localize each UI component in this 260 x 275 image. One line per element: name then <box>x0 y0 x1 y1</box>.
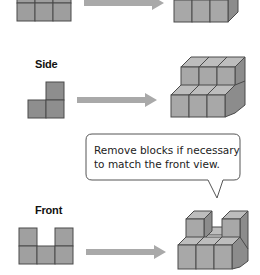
front-result-blocks <box>176 205 256 275</box>
front-view-squares <box>19 228 77 268</box>
callout-line-1: Remove blocks if necessary <box>94 143 244 157</box>
right-arrow-icon <box>86 246 168 260</box>
right-arrow-icon <box>84 0 166 12</box>
top-result-blocks <box>174 0 254 26</box>
right-arrow-icon <box>77 94 159 108</box>
side-label: Side <box>35 58 57 70</box>
front-label: Front <box>35 204 62 216</box>
side-result-blocks <box>167 55 247 125</box>
top-view-squares <box>17 0 77 23</box>
side-view-squares <box>28 82 68 122</box>
callout-text: Remove blocks if necessary to match the … <box>94 143 244 171</box>
callout-line-2: to match the front view. <box>94 157 244 171</box>
